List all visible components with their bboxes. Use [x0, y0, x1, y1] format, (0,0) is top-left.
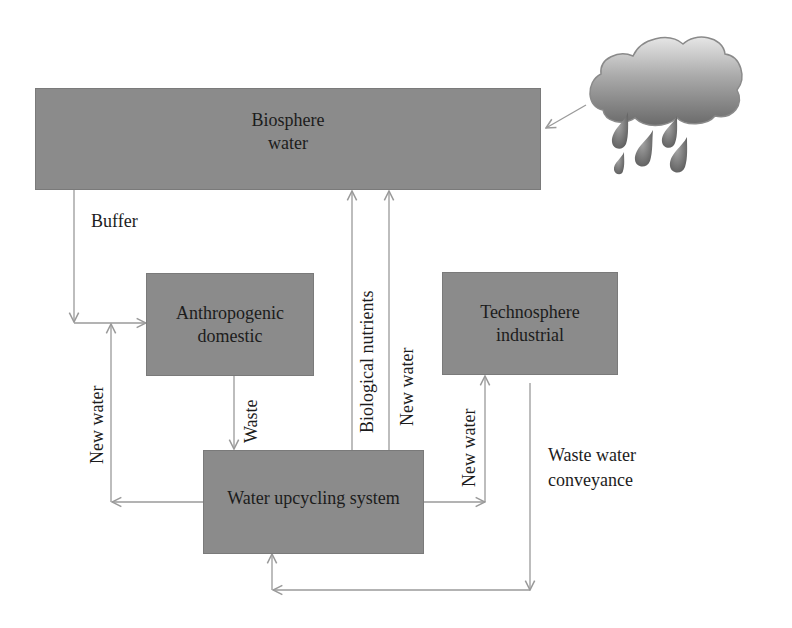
waste-water-conveyance-label: Waste water conveyance [548, 443, 636, 493]
technosphere-industrial-box: Technosphere industrial [442, 272, 618, 375]
upcycling-label: Water upcycling system [227, 487, 400, 510]
waste-water-label-line2: conveyance [548, 468, 636, 493]
raindrop-icon [614, 152, 624, 174]
waste-water-label-line1: Waste water [548, 443, 636, 468]
diagram-canvas: Biosphere water Anthropogenic domestic T… [0, 0, 792, 628]
new-water-right-label: New water [459, 409, 480, 487]
waste-label: Waste [241, 399, 262, 443]
new-water-center-label: New water [397, 348, 418, 426]
anthropogenic-domestic-box: Anthropogenic domestic [146, 273, 314, 376]
biological-nutrients-label: Biological nutrients [357, 291, 378, 433]
technosphere-label-line2: industrial [496, 324, 564, 347]
biosphere-water-box: Biosphere water [35, 88, 541, 190]
rain-arrow [546, 105, 586, 128]
technosphere-label-line1: Technosphere [480, 301, 580, 324]
biosphere-label-line1: Biosphere [252, 109, 325, 132]
biosphere-label-line2: water [268, 132, 308, 155]
anthropogenic-label-line2: domestic [198, 325, 263, 348]
buffer-label: Buffer [91, 210, 138, 232]
raindrop-icon [635, 130, 653, 167]
rain-cloud-icon [585, 30, 747, 178]
water-upcycling-system-box: Water upcycling system [203, 450, 424, 554]
new-water-left-label: New water [87, 386, 108, 464]
anthropogenic-label-line1: Anthropogenic [176, 302, 284, 325]
